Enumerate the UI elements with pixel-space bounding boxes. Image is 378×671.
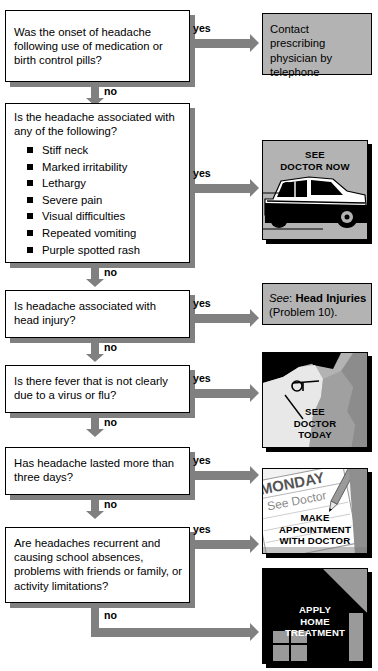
- list-item: Marked irritability: [27, 159, 197, 176]
- q6-yes-label: yes: [193, 523, 211, 535]
- list-item: Repeated vomiting: [27, 225, 197, 242]
- list-item: Severe pain: [27, 192, 197, 209]
- q6-no-label: no: [104, 609, 117, 621]
- q2-symptom-list: Stiff neck Marked irritability Lethargy …: [14, 142, 197, 258]
- q5-question: Has headache lasted more than three days…: [14, 456, 182, 484]
- q4-yes-label: yes: [193, 372, 211, 384]
- q4-question: Is there fever that is not clearly due t…: [14, 374, 182, 402]
- q1-yes-arrow[interactable]: [190, 39, 250, 48]
- outcome-apply-home-treatment[interactable]: APPLY HOME TREATMENT: [262, 568, 372, 668]
- bullet-square-icon: [27, 164, 33, 170]
- bullet-square-icon: [27, 197, 33, 203]
- q4-no-arrow[interactable]: [91, 418, 99, 429]
- outcome-see-doctor-now-caption: SEE DOCTOR NOW: [262, 149, 368, 172]
- outcome-see-doctor-now[interactable]: SEE DOCTOR NOW: [262, 140, 372, 244]
- q1-shadow-bottom: [10, 82, 190, 87]
- reference-title[interactable]: Head Injuries: [295, 292, 366, 304]
- q3-shadow-bottom: [10, 338, 190, 343]
- outcome-see-doctor-today[interactable]: SEE DOCTOR TODAY: [262, 352, 372, 452]
- q2-shadow-bottom: [10, 263, 190, 268]
- q5-yes-arrow[interactable]: [190, 471, 250, 480]
- list-item: Visual difficulties: [27, 208, 197, 225]
- q2-yes-arrow[interactable]: [190, 184, 250, 193]
- q2-question: Is the headache associated with any of t…: [14, 110, 184, 138]
- q2-no-label: no: [104, 266, 117, 278]
- list-item: Lethargy: [27, 175, 197, 192]
- bullet-square-icon: [27, 247, 33, 253]
- list-item: Purple spotted rash: [27, 242, 197, 259]
- bullet-square-icon: [27, 213, 33, 219]
- outcome-apply-home-treatment-caption: APPLY HOME TREATMENT: [262, 604, 368, 639]
- q4-shadow-bottom: [10, 413, 190, 418]
- outcome-make-appointment[interactable]: MONDAY See Doctor MAKE APPOINTMENT WITH …: [262, 468, 372, 558]
- see-prefix: See: [269, 292, 289, 304]
- see-colon: :: [289, 292, 292, 304]
- bullet-square-icon: [27, 147, 33, 153]
- q5-no-label: no: [104, 498, 117, 510]
- q1-yes-label: yes: [193, 22, 211, 34]
- q6-shadow-bottom: [10, 603, 190, 608]
- list-item: Stiff neck: [27, 142, 197, 159]
- q3-yes-arrow[interactable]: [190, 314, 250, 323]
- bullet-square-icon: [27, 180, 33, 186]
- q5-no-arrow[interactable]: [91, 500, 99, 511]
- q6-question: Are headaches recurrent and causing scho…: [14, 536, 184, 593]
- q1-no-arrow[interactable]: [91, 87, 99, 98]
- q3-question: Is headache associated with head injury?: [14, 299, 182, 327]
- bullet-square-icon: [27, 230, 33, 236]
- q6-yes-arrow[interactable]: [190, 540, 250, 549]
- q2-no-arrow[interactable]: [91, 268, 99, 279]
- q3-no-arrow[interactable]: [91, 343, 99, 354]
- q1-no-label: no: [104, 85, 117, 97]
- q4-no-label: no: [104, 416, 117, 428]
- q5-shadow-bottom: [10, 495, 190, 500]
- outcome-see-head-injuries-text: See: Head Injuries (Problem 10).: [269, 291, 369, 320]
- q5-yes-label: yes: [193, 454, 211, 466]
- q6-no-arrow[interactable]: [91, 628, 250, 637]
- q2-yes-label: yes: [193, 167, 211, 179]
- q3-yes-label: yes: [193, 297, 211, 309]
- q4-yes-arrow[interactable]: [190, 389, 250, 398]
- outcome-contact-physician-text: Contact prescribing physician by telepho…: [270, 22, 367, 80]
- outcome-make-appointment-caption: MAKE APPOINTMENT WITH DOCTOR: [262, 512, 368, 547]
- outcome-see-doctor-today-caption: SEE DOCTOR TODAY: [262, 406, 368, 441]
- q1-question: Was the onset of headache following use …: [14, 25, 182, 68]
- problem-number: (Problem 10).: [269, 305, 369, 319]
- q3-no-label: no: [104, 341, 117, 353]
